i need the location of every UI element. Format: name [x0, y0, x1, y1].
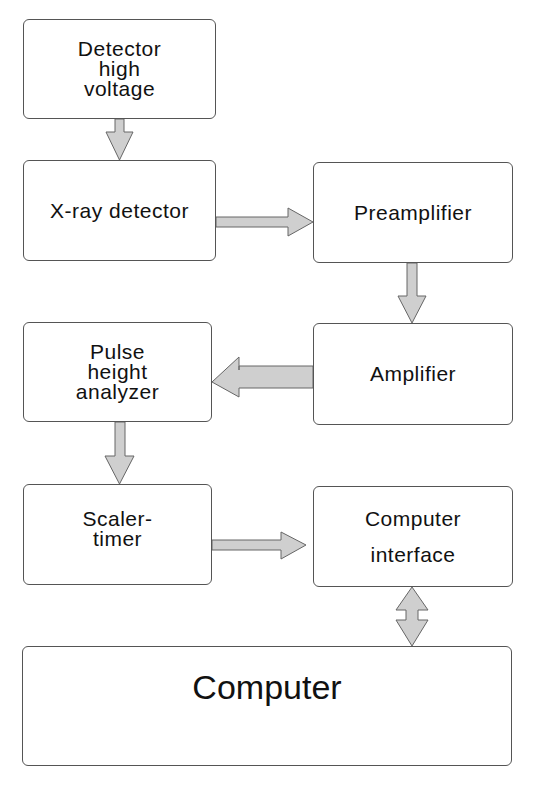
node-amplifier: Amplifier	[313, 323, 513, 425]
arrow-down-pha-to-scaler	[105, 422, 134, 484]
arrow-down-hv-to-detector	[106, 119, 133, 160]
node-detector-high-voltage: Detector high voltage	[23, 19, 216, 119]
arrow-right-detector-to-preamplifier	[216, 208, 313, 236]
arrow-bidirectional-interface-computer	[396, 587, 428, 646]
arrow-down-preamplifier-to-amplifier	[398, 263, 426, 323]
node-label: Amplifier	[370, 364, 456, 384]
node-preamplifier: Preamplifier	[313, 162, 513, 263]
node-computer-interface: Computer interface	[313, 486, 513, 587]
node-xray-detector: X-ray detector	[23, 160, 216, 261]
arrow-right-scaler-to-interface	[212, 532, 306, 559]
node-scaler-timer: Scaler- timer	[23, 484, 212, 585]
node-label: X-ray detector	[50, 201, 189, 221]
node-label: Scaler- timer	[82, 509, 152, 549]
node-label: Detector high voltage	[78, 39, 161, 99]
node-label: Preamplifier	[354, 203, 472, 223]
node-pulse-height-analyzer: Pulse height analyzer	[23, 322, 212, 422]
node-label: Pulse height analyzer	[76, 342, 159, 402]
node-label: Computer interface	[365, 501, 461, 573]
node-label: Computer	[192, 669, 341, 705]
arrow-left-amplifier-to-pha	[212, 357, 313, 397]
node-computer: Computer	[22, 646, 512, 766]
